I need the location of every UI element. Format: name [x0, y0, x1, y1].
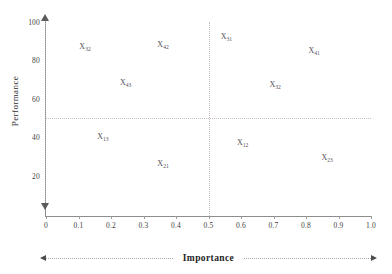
y-tick-label: 20	[24, 171, 40, 180]
data-point-label: X21	[157, 159, 168, 170]
x-tick-label: 0.7	[269, 221, 279, 230]
x-tick-mark	[209, 216, 210, 219]
y-axis-title: Performance	[10, 54, 20, 148]
x-tick-mark	[274, 216, 275, 219]
x-tick-mark	[339, 216, 340, 219]
x-tick-label: 0.2	[106, 221, 116, 230]
data-point-label: X43	[120, 78, 131, 89]
y-tick-label: 100	[24, 18, 40, 27]
y-tick-label: 40	[24, 133, 40, 142]
x-tick-mark	[111, 216, 112, 219]
x-axis-title: Importance	[173, 253, 245, 263]
data-point-label: X23	[321, 153, 332, 164]
data-point-label: X12	[237, 138, 248, 149]
x-tick-label: 0.3	[139, 221, 149, 230]
x-tick-label: 0.9	[334, 221, 344, 230]
importance-performance-chart: Performance 20406080100 00.10.20.30.40.5…	[0, 0, 392, 274]
data-point-label: X13	[97, 132, 108, 143]
x-tick-mark	[144, 216, 145, 219]
y-tick-label: 60	[24, 94, 40, 103]
x-tick-label: 0	[44, 221, 48, 230]
data-point-label: X32	[269, 80, 280, 91]
data-point-label: X31	[221, 32, 232, 43]
data-point-label: X32	[79, 42, 90, 53]
x-tick-label: 0.6	[236, 221, 246, 230]
data-point-label: X42	[157, 40, 168, 51]
x-tick-mark	[306, 216, 307, 219]
x-tick-label: 1.0	[366, 221, 376, 230]
x-tick-label: 0.4	[171, 221, 181, 230]
x-axis-right-arrow-line	[244, 258, 371, 259]
x-tick-label: 0.5	[204, 221, 214, 230]
y-tick-label: 80	[24, 56, 40, 65]
x-tick-mark	[176, 216, 177, 219]
x-axis-left-arrow-line	[46, 258, 173, 259]
data-point-label: X41	[308, 46, 319, 57]
x-tick-label: 0.8	[301, 221, 311, 230]
plot-area	[46, 22, 371, 214]
x-axis-title-row: Importance	[46, 249, 371, 267]
x-tick-mark	[79, 216, 80, 219]
x-tick-mark	[241, 216, 242, 219]
y-axis-up-arrow-icon	[41, 14, 49, 21]
x-tick-label: 0.1	[74, 221, 84, 230]
x-tick-mark	[46, 216, 47, 219]
x-tick-mark	[371, 216, 372, 219]
